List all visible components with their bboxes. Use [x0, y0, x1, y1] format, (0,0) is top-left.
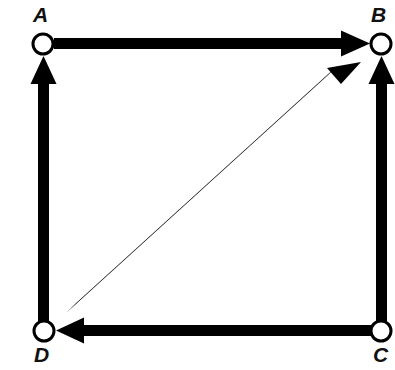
edge-a-to-b — [54, 31, 370, 57]
node-c[interactable] — [371, 321, 391, 341]
edge-d-to-b — [66, 62, 361, 313]
edge-c-to-b-arrowhead — [369, 56, 395, 84]
edge-d-to-b-arrowhead — [327, 62, 361, 84]
graph-figure: A B C D — [0, 0, 395, 370]
graph-canvas — [0, 0, 395, 370]
edge-c-to-b-shaft — [376, 84, 387, 322]
edge-d-to-a-arrowhead — [31, 56, 57, 84]
edge-c-to-d — [56, 318, 371, 344]
node-a[interactable] — [33, 34, 53, 54]
edge-c-to-b — [369, 56, 395, 322]
edge-a-to-b-arrowhead — [341, 31, 370, 57]
edge-d-to-a — [31, 56, 57, 322]
edge-d-to-b-shaft — [66, 66, 337, 313]
node-label-a: A — [33, 4, 48, 25]
node-label-b: B — [371, 4, 386, 25]
edge-d-to-a-shaft — [38, 84, 49, 322]
node-label-d: D — [34, 344, 49, 365]
edge-c-to-d-arrowhead — [56, 318, 84, 344]
node-d[interactable] — [34, 321, 54, 341]
node-label-c: C — [373, 344, 388, 365]
node-b[interactable] — [371, 34, 391, 54]
edge-a-to-b-shaft — [54, 38, 341, 49]
edge-c-to-d-shaft — [84, 325, 371, 336]
